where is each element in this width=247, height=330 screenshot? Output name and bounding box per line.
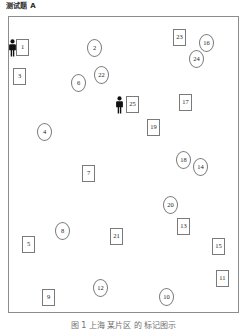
marker-circle-22[interactable]: 22 (94, 66, 109, 84)
marker-label: 7 (87, 170, 90, 177)
marker-square-25[interactable]: 25 (126, 96, 139, 113)
marker-label: 24 (193, 56, 200, 63)
marker-square-9[interactable]: 9 (42, 289, 55, 306)
marker-circle-20[interactable]: 20 (163, 196, 178, 214)
marker-square-21[interactable]: 21 (110, 228, 123, 245)
marker-label: 12 (97, 285, 104, 292)
marker-circle-14[interactable]: 14 (193, 158, 208, 176)
marker-square-23[interactable]: 23 (173, 29, 186, 46)
marker-label: 25 (129, 101, 136, 108)
marker-square-3[interactable]: 3 (13, 68, 26, 85)
person-icon (115, 96, 124, 114)
marker-circle-12[interactable]: 12 (93, 279, 108, 297)
marker-label: 23 (176, 34, 183, 41)
marker-circle-8[interactable]: 8 (55, 222, 70, 240)
marker-circle-10[interactable]: 10 (159, 288, 174, 306)
scene-panel: 1234567891011121314151617181920212223242… (8, 16, 239, 313)
marker-label: 4 (43, 129, 46, 136)
marker-label: 21 (113, 233, 120, 240)
marker-label: 8 (61, 228, 64, 235)
marker-square-17[interactable]: 17 (179, 94, 192, 111)
marker-label: 20 (167, 202, 174, 209)
marker-square-19[interactable]: 19 (147, 119, 160, 136)
marker-circle-6[interactable]: 6 (71, 74, 86, 92)
marker-label: 16 (203, 40, 210, 47)
marker-circle-16[interactable]: 16 (199, 34, 214, 52)
marker-square-11[interactable]: 11 (216, 270, 229, 287)
marker-label: 1 (21, 44, 24, 51)
marker-label: 18 (180, 157, 187, 164)
marker-label: 6 (77, 80, 80, 87)
marker-label: 10 (163, 294, 170, 301)
marker-label: 14 (197, 164, 204, 171)
marker-circle-18[interactable]: 18 (176, 151, 191, 169)
marker-label: 22 (98, 72, 105, 79)
marker-label: 13 (180, 223, 187, 230)
marker-label: 17 (182, 99, 189, 106)
marker-label: 9 (47, 294, 50, 301)
marker-square-13[interactable]: 13 (177, 218, 190, 235)
marker-label: 2 (93, 45, 96, 52)
figure-title: 测试题 A (6, 2, 36, 11)
marker-square-15[interactable]: 15 (212, 238, 225, 255)
marker-label: 19 (150, 124, 157, 131)
marker-circle-2[interactable]: 2 (87, 39, 102, 57)
marker-label: 11 (219, 275, 225, 282)
marker-label: 15 (215, 243, 222, 250)
marker-label: 5 (27, 241, 30, 248)
figure-caption: 图 1 上海 某片区 的 标记图示 (0, 316, 247, 329)
marker-circle-4[interactable]: 4 (37, 123, 52, 141)
marker-square-1[interactable]: 1 (16, 39, 29, 56)
marker-circle-24[interactable]: 24 (189, 50, 204, 68)
marker-square-7[interactable]: 7 (82, 165, 95, 182)
figure-root: 测试题 A 1234567891011121314151617181920212… (0, 0, 247, 330)
marker-square-5[interactable]: 5 (22, 236, 35, 253)
marker-label: 3 (18, 73, 21, 80)
